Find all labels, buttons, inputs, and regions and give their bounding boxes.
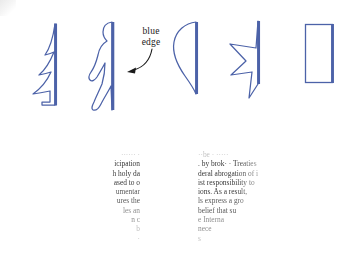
text-line: · (82, 234, 140, 243)
text-line: deral abrogation of i (198, 169, 276, 178)
shape-half-star (222, 18, 272, 108)
shape-teardrop-leaf (168, 18, 212, 108)
text-line: e Interna (198, 215, 276, 224)
text-line: b (82, 224, 140, 233)
rectangle-icon (300, 18, 340, 98)
shapes-row: blue edge (0, 0, 358, 130)
text-block-left: ······ · icipation h holy da ased to o u… (82, 150, 140, 243)
text-line: ls express a gro (198, 196, 276, 205)
annotation-arrow-icon (106, 44, 158, 80)
text-block-right: ··be · ····· . by brok· · Treaties deral… (198, 150, 276, 243)
text-line: les an (82, 206, 140, 215)
text-line: ··be · ····· (198, 150, 276, 159)
text-line: umentar (82, 187, 140, 196)
text-line: icipation (82, 159, 140, 168)
shape-rectangle (300, 18, 340, 102)
text-line: s (198, 234, 276, 243)
text-line: ased to o (82, 178, 140, 187)
text-line: ures the (82, 196, 140, 205)
text-line: nece (198, 224, 276, 233)
shape-fir-tree (12, 18, 68, 114)
text-line: ist responsibility to (198, 178, 276, 187)
text-line: h holy da (82, 169, 140, 178)
text-line: ······ · (82, 150, 140, 159)
text-line: ions. As a result, (198, 187, 276, 196)
text-panels: ······ · icipation h holy da ased to o u… (0, 140, 358, 258)
teardrop-leaf-icon (168, 18, 212, 104)
text-line: belief that su (198, 206, 276, 215)
figure-page: blue edge (0, 0, 358, 258)
text-line: n c (82, 215, 140, 224)
fir-tree-icon (12, 18, 68, 110)
half-star-icon (222, 18, 272, 104)
text-line: . by brok· · Treaties (198, 159, 276, 168)
